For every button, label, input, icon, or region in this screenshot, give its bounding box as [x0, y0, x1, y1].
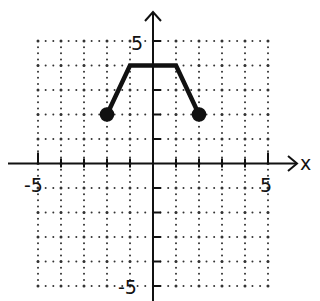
y-tick-label-min: -5	[118, 276, 137, 298]
closed-endpoint-icon	[101, 108, 114, 121]
coordinate-plane: x -5 5 5 -5	[0, 0, 320, 301]
closed-endpoint-icon	[193, 108, 206, 121]
x-axis-label: x	[300, 152, 311, 174]
x-tick-label-max: 5	[260, 174, 272, 196]
x-tick-label-min: -5	[24, 174, 43, 196]
y-tick-label-max: 5	[131, 32, 143, 54]
axes	[8, 12, 297, 301]
